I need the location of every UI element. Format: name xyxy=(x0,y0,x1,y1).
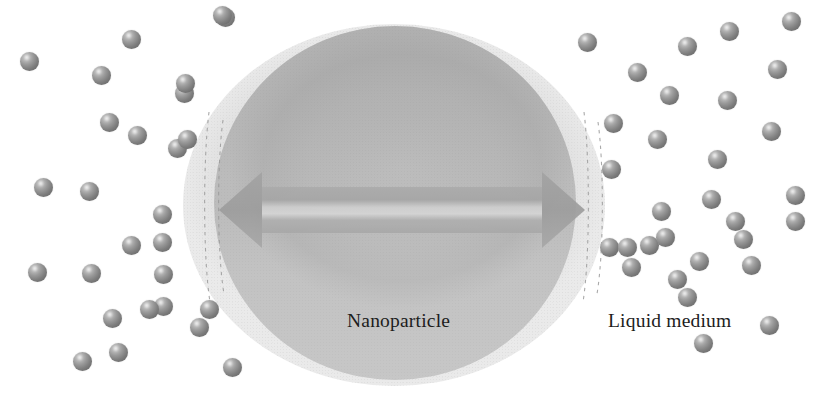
liquid-molecule xyxy=(726,212,745,231)
liquid-molecule xyxy=(718,91,737,110)
liquid-molecule xyxy=(20,52,39,71)
liquid-molecule xyxy=(678,37,697,56)
liquid-molecule xyxy=(604,114,623,133)
liquid-molecule xyxy=(140,300,159,319)
nanoparticle-diagram: Nanoparticle Liquid medium xyxy=(0,0,821,395)
liquid-molecule xyxy=(782,12,801,31)
liquid-molecule xyxy=(82,264,101,283)
liquid-molecule xyxy=(660,86,679,105)
liquid-molecule xyxy=(694,334,713,353)
liquid-molecule xyxy=(223,358,242,377)
liquid-molecule xyxy=(678,288,697,307)
liquid-molecule xyxy=(34,178,53,197)
liquid-molecule xyxy=(80,182,99,201)
liquid-molecule xyxy=(602,160,621,179)
liquid-molecule xyxy=(652,202,671,221)
liquid-molecule xyxy=(176,74,195,93)
liquid-molecule xyxy=(178,130,197,149)
liquid-molecule xyxy=(154,265,173,284)
liquid-molecule xyxy=(786,186,805,205)
liquid-molecule xyxy=(742,256,761,275)
liquid-molecule xyxy=(153,233,172,252)
liquid-molecule xyxy=(656,228,675,247)
liquid-molecule xyxy=(690,252,709,271)
liquid-molecule xyxy=(668,270,687,289)
liquid-molecule xyxy=(578,33,597,52)
liquid-molecule xyxy=(762,122,781,141)
liquid-molecule xyxy=(73,352,92,371)
liquid-molecule xyxy=(92,66,111,85)
liquid-molecule xyxy=(768,60,787,79)
liquid-molecule xyxy=(153,205,172,224)
liquid-molecule xyxy=(648,130,667,149)
liquid-molecule xyxy=(786,212,805,231)
liquid-medium-molecules xyxy=(0,0,821,395)
liquid-molecule xyxy=(100,113,119,132)
liquid-molecule xyxy=(600,238,619,257)
liquid-molecule xyxy=(618,238,637,257)
liquid-molecule xyxy=(200,300,219,319)
liquid-molecule xyxy=(628,63,647,82)
liquid-molecule xyxy=(28,263,47,282)
label-nanoparticle: Nanoparticle xyxy=(347,310,450,332)
liquid-molecule xyxy=(128,126,147,145)
liquid-molecule xyxy=(708,150,727,169)
liquid-molecule xyxy=(760,316,779,335)
liquid-molecule xyxy=(190,318,209,337)
liquid-molecule xyxy=(213,6,232,25)
liquid-molecule xyxy=(720,22,739,41)
liquid-molecule xyxy=(103,309,122,328)
liquid-molecule xyxy=(702,190,721,209)
label-liquid-medium: Liquid medium xyxy=(608,310,731,332)
liquid-molecule xyxy=(109,343,128,362)
liquid-molecule xyxy=(622,258,641,277)
liquid-molecule xyxy=(734,230,753,249)
liquid-molecule xyxy=(122,30,141,49)
liquid-molecule xyxy=(122,236,141,255)
